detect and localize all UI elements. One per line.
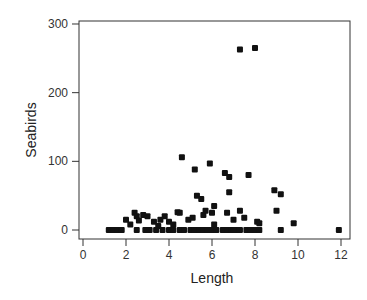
data-point (147, 227, 153, 233)
x-tick-label: 4 (166, 248, 173, 262)
data-point (198, 196, 204, 202)
data-point (136, 217, 142, 223)
data-points (106, 45, 342, 233)
y-axis: 0100200300 (48, 17, 79, 237)
data-point (226, 189, 232, 195)
x-tick-label: 8 (252, 248, 259, 262)
data-point (291, 220, 297, 226)
data-point (237, 227, 243, 233)
data-point (256, 227, 262, 233)
y-tick-label: 0 (61, 223, 68, 237)
x-tick-label: 0 (80, 248, 87, 262)
data-point (241, 215, 247, 221)
x-tick-label: 12 (334, 248, 348, 262)
data-point (211, 222, 217, 228)
data-point (170, 222, 176, 228)
data-point (278, 227, 284, 233)
data-point (207, 160, 213, 166)
data-point (252, 45, 258, 51)
data-point (127, 222, 133, 228)
data-point (237, 208, 243, 214)
data-point (274, 208, 280, 214)
scatter-chart: 0100200300 024681012 Length Seabirds (0, 0, 367, 300)
data-point (224, 210, 230, 216)
data-point (271, 187, 277, 193)
data-point (231, 217, 237, 223)
x-axis: 024681012 (80, 239, 348, 262)
data-point (119, 227, 125, 233)
data-point (179, 154, 185, 160)
data-point (256, 220, 262, 226)
data-point (155, 223, 161, 229)
x-tick-label: 10 (291, 248, 305, 262)
data-point (336, 227, 342, 233)
data-point (134, 227, 140, 233)
y-tick-label: 200 (48, 86, 68, 100)
data-point (213, 227, 219, 233)
x-tick-label: 6 (209, 248, 216, 262)
data-point (181, 227, 187, 233)
x-axis-title: Length (191, 270, 234, 286)
data-point (226, 174, 232, 180)
data-point (209, 210, 215, 216)
data-point (145, 213, 151, 219)
data-point (278, 191, 284, 197)
y-axis-title: Seabirds (23, 102, 39, 157)
data-point (203, 208, 209, 214)
data-point (170, 227, 176, 233)
data-point (246, 172, 252, 178)
x-tick-label: 2 (123, 248, 130, 262)
data-point (192, 167, 198, 173)
data-point (162, 213, 168, 219)
data-point (190, 215, 196, 221)
data-point (237, 46, 243, 52)
y-tick-label: 100 (48, 154, 68, 168)
y-tick-label: 300 (48, 17, 68, 31)
data-point (211, 203, 217, 209)
data-point (177, 210, 183, 216)
